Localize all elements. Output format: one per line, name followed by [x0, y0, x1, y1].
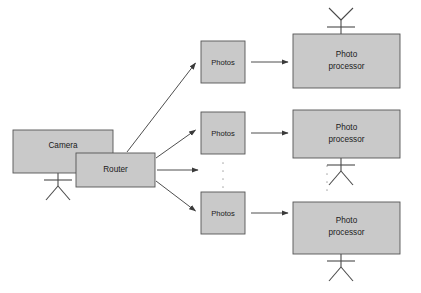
node-processor-bottom[interactable]: Photo processor: [293, 202, 400, 254]
antenna-processor-middle: [327, 158, 355, 185]
processor-middle-label-line2: processor: [329, 135, 365, 144]
processor-top-label-line2: processor: [329, 62, 365, 71]
diagram-root: Camera Router Photos Photos Photos Photo: [0, 0, 421, 293]
processor-bottom-label-line2: processor: [329, 228, 365, 237]
node-photos-middle[interactable]: Photos: [201, 112, 245, 154]
processor-top-label-line1: Photo: [336, 50, 358, 59]
arrow-router-to-photos-middle: [156, 130, 196, 158]
diagram-canvas: Camera Router Photos Photos Photos Photo: [0, 0, 421, 293]
antenna-processor-top: [327, 8, 355, 34]
photos-middle-label: Photos: [211, 129, 235, 138]
node-photos-bottom[interactable]: Photos: [201, 192, 245, 234]
photos-top-label: Photos: [211, 58, 235, 67]
ellipsis-photos-column: [222, 162, 224, 188]
camera-label: Camera: [48, 141, 78, 150]
arrow-router-to-photos-bottom: [156, 181, 196, 211]
processor-bottom-label-line1: Photo: [336, 216, 358, 225]
router-label: Router: [103, 165, 128, 174]
node-processor-middle[interactable]: Photo processor: [293, 110, 400, 158]
node-processor-top[interactable]: Photo processor: [293, 34, 400, 88]
arrow-router-to-photos-top: [127, 63, 196, 152]
processor-middle-label-line1: Photo: [336, 123, 358, 132]
antenna-camera: [44, 173, 72, 200]
ellipsis-processor-column: [326, 165, 328, 191]
node-photos-top[interactable]: Photos: [201, 41, 245, 83]
photos-bottom-label: Photos: [211, 209, 235, 218]
antenna-processor-bottom: [327, 254, 355, 281]
node-router[interactable]: Router: [76, 153, 155, 187]
